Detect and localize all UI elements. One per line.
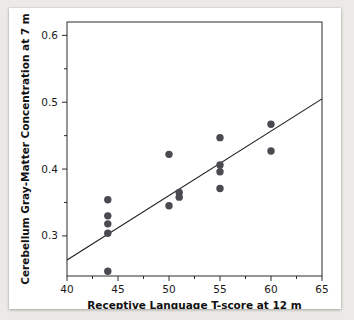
data-point (267, 121, 274, 128)
x-tick-label: 65 (315, 283, 328, 295)
data-point (216, 161, 223, 168)
y-tick-label: 0.3 (41, 229, 58, 241)
y-tick-label: 0.5 (41, 96, 58, 108)
data-point (104, 230, 111, 237)
figure-card: 0.30.40.50.6 404550556065 Receptive Lang… (9, 8, 341, 309)
data-point (176, 193, 183, 200)
y-tick-label: 0.4 (41, 163, 58, 175)
plot-background (9, 8, 341, 309)
data-point (267, 147, 274, 154)
data-point (216, 134, 223, 141)
y-axis-title: Cerebellum Gray-Matter Concentration at … (19, 13, 31, 285)
plot-canvas (9, 8, 341, 309)
data-point (104, 268, 111, 275)
data-point (104, 196, 111, 203)
data-point (165, 151, 172, 158)
y-tick-label: 0.6 (41, 29, 58, 41)
data-point (104, 220, 111, 227)
x-tick-label: 55 (213, 283, 226, 295)
data-point (216, 168, 223, 175)
x-tick-label: 40 (60, 283, 73, 295)
x-axis-title: Receptive Language T-score at 12 m (87, 299, 302, 309)
plot-svg: 0.30.40.50.6 404550556065 Receptive Lang… (9, 8, 341, 309)
data-point (165, 202, 172, 209)
data-point (216, 185, 223, 192)
x-tick-label: 50 (162, 283, 175, 295)
x-tick-label: 45 (111, 283, 124, 295)
x-tick-label: 60 (264, 283, 277, 295)
data-point (104, 212, 111, 219)
scatter-plot-figure: 0.30.40.50.6 404550556065 Receptive Lang… (9, 8, 341, 309)
